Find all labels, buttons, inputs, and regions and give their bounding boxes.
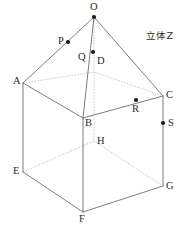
- vertex-label-p: P: [58, 36, 64, 47]
- hidden-edge-hg: [94, 141, 163, 186]
- edge-ab: [23, 83, 83, 118]
- vertex-label-o: O: [90, 2, 98, 13]
- figure-container: OABCDEFGHPQRS 立体Z: [0, 0, 191, 237]
- visible-edge-group: [23, 17, 163, 212]
- edge-fg: [83, 186, 163, 212]
- vertex-label-a: A: [13, 76, 21, 87]
- vertex-label-f: F: [79, 214, 85, 225]
- edge-oa: [23, 17, 94, 83]
- point-marker-q: [91, 50, 95, 54]
- point-marker-r: [134, 98, 138, 102]
- vertex-label-r: R: [132, 104, 139, 115]
- vertex-label-b: B: [85, 118, 92, 129]
- vertex-label-q: Q: [78, 52, 86, 63]
- vertex-label-g: G: [166, 181, 174, 192]
- vertex-label-c: C: [166, 90, 173, 101]
- point-marker-s: [161, 121, 165, 125]
- edge-ob: [83, 17, 94, 118]
- figure-caption: 立体Z: [146, 31, 173, 41]
- vertex-label-e: E: [13, 166, 19, 177]
- point-marker-o: [92, 15, 96, 19]
- edge-ef: [23, 172, 83, 212]
- edge-bc: [83, 96, 163, 118]
- vertex-label-s: S: [168, 118, 174, 129]
- vertex-label-d: D: [97, 56, 105, 67]
- point-marker-p: [66, 40, 70, 44]
- vertex-label-h: H: [97, 136, 105, 147]
